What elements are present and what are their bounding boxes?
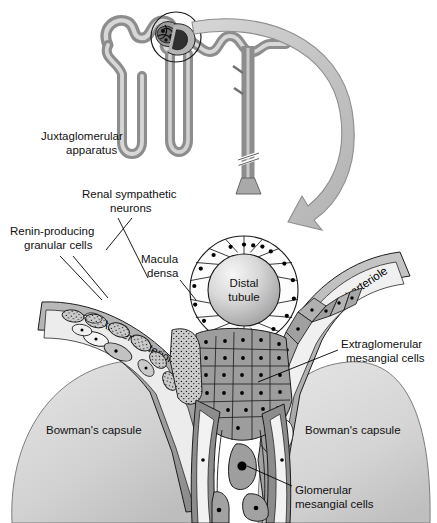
cell-nucleus: [310, 308, 313, 311]
extraglomerular-mesangial-cells-label-line2: mesangial cells: [346, 352, 425, 364]
distal-tubule-label-line1: Distal: [230, 277, 259, 289]
glomerular-mesangial-cells-label-line2: mesangial cells: [295, 498, 374, 510]
extraglomerular-mesangial-cells-label-line1: Extraglomerular: [341, 338, 422, 350]
bowmans-capsule-label-left: Bowman's capsule: [46, 424, 142, 436]
cell-nucleus: [296, 327, 300, 331]
cell-nucleus: [280, 458, 284, 462]
bowmans-capsule-label-right: Bowman's capsule: [305, 424, 401, 436]
cell-nucleus: [81, 329, 84, 332]
cell-nucleus: [350, 296, 353, 299]
glomerular-mesangial-cells-label-line1: Glomerular: [295, 484, 352, 496]
renin-producing-granular-cells-label-line2: granular cells: [24, 239, 93, 251]
macula-densa-label-line2: densa: [147, 267, 179, 279]
macula-densa-ring: Distal tubule: [190, 236, 298, 344]
renal-sympathetic-neurons-label-line1: Renal sympathetic: [82, 188, 177, 200]
cell-nucleus: [145, 367, 148, 370]
macula-densa-label-line1: Macula: [141, 253, 179, 265]
distal-tubule-label-line2: tubule: [228, 291, 259, 303]
renal-sympathetic-neurons-label-line2: neurons: [110, 202, 152, 214]
cell-nucleus: [337, 301, 340, 304]
cell-nucleus: [254, 506, 259, 511]
cell-nucleus: [324, 309, 327, 312]
figure-root: Afferent arteriole Efferent arteriole: [0, 0, 437, 523]
renin-producing-granular-cells-label-line1: Renin-producing: [10, 225, 94, 237]
cell-nucleus: [114, 349, 117, 352]
distal-tubule-lumen: [208, 254, 280, 326]
juxtaglomerular-apparatus-diagram: Afferent arteriole Efferent arteriole: [0, 0, 437, 523]
cell-nucleus: [201, 458, 205, 462]
cell-nucleus: [217, 508, 222, 513]
cell-nucleus: [237, 461, 246, 470]
juxtaglomerular-apparatus-label-line2: apparatus: [66, 144, 117, 156]
cell-nucleus: [94, 337, 97, 340]
juxtaglomerular-apparatus-label-line1: Juxtaglomerular: [41, 130, 123, 142]
